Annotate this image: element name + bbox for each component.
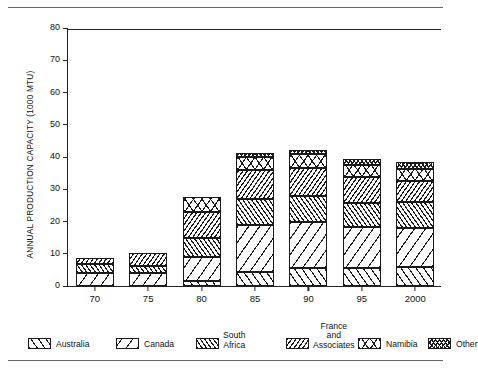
bar-segment[interactable] — [183, 238, 221, 257]
bar-segment[interactable] — [343, 227, 381, 268]
bar-group[interactable]: 85 — [236, 28, 274, 286]
bar-segment[interactable] — [236, 153, 274, 157]
bar-segment[interactable] — [343, 177, 381, 203]
legend-item[interactable]: Australia — [28, 338, 89, 349]
legend-label-line: Canada — [144, 340, 174, 350]
bar-segment[interactable] — [396, 181, 434, 202]
y-tick-label: 30 — [50, 183, 60, 193]
y-tick-label: 0 — [55, 280, 60, 290]
y-tick-label: 80 — [50, 22, 60, 32]
x-tick-label: 75 — [143, 293, 154, 304]
bar-segment[interactable] — [236, 157, 274, 170]
bar-segment[interactable] — [236, 272, 274, 287]
bar-segment[interactable] — [343, 268, 381, 286]
y-tick-label: 70 — [50, 54, 60, 64]
legend-item[interactable]: SouthAfrica — [196, 331, 245, 349]
legend-label-line: Africa — [223, 341, 245, 351]
y-tick-mark — [63, 28, 68, 29]
legend-label: SouthAfrica — [223, 331, 245, 350]
y-axis-title: ANNUAL PRODUCTION CAPACITY (1000 MTU) — [26, 45, 35, 285]
bar-segment[interactable] — [236, 170, 274, 199]
x-tick-label: 2000 — [405, 293, 426, 304]
bar-group[interactable]: 90 — [289, 28, 327, 286]
bar-segment[interactable] — [183, 212, 221, 238]
bar-segment[interactable] — [76, 273, 114, 286]
legend-swatch-icon — [286, 338, 309, 349]
legend-label: FranceandAssociates — [313, 322, 355, 351]
y-tick-label: 60 — [50, 87, 60, 97]
bar-segment[interactable] — [396, 267, 434, 286]
bar-segment[interactable] — [236, 225, 274, 272]
bar-series-container: 7075808590952000 — [68, 30, 441, 286]
legend-label: Namibia — [386, 340, 418, 350]
top-horizontal-rule — [8, 7, 443, 8]
legend-label-line: Associates — [313, 341, 355, 351]
legend-item[interactable]: Canada — [116, 338, 174, 349]
y-tick-label: 20 — [50, 216, 60, 226]
legend-swatch-icon — [116, 338, 139, 349]
bar-segment[interactable] — [129, 273, 167, 286]
bar-segment[interactable] — [289, 154, 327, 167]
legend-label-line: Other — [456, 340, 478, 350]
y-tick-label: 10 — [50, 248, 60, 258]
legend-swatch-icon — [358, 338, 381, 349]
bar-segment[interactable] — [396, 169, 434, 181]
bar-segment[interactable] — [289, 150, 327, 155]
legend-swatch-icon — [28, 338, 51, 349]
x-tick-label: 90 — [303, 293, 314, 304]
bar-segment[interactable] — [76, 258, 114, 264]
legend-label: Canada — [144, 340, 174, 350]
bar-segment[interactable] — [289, 168, 327, 196]
x-tick-mark — [254, 286, 255, 291]
x-tick-label: 70 — [89, 293, 100, 304]
legend-label: Other — [456, 340, 478, 350]
bar-group[interactable]: 2000 — [396, 28, 434, 286]
bar-group[interactable]: 70 — [76, 28, 114, 286]
bar-segment[interactable] — [343, 159, 381, 165]
bar-group[interactable]: 75 — [129, 28, 167, 286]
x-tick-label: 95 — [357, 293, 368, 304]
y-tick-label: 40 — [50, 151, 60, 161]
bar-segment[interactable] — [343, 203, 381, 227]
x-tick-label: 85 — [250, 293, 261, 304]
legend-label-line: Namibia — [386, 340, 418, 350]
bar-segment[interactable] — [396, 162, 434, 169]
bar-segment[interactable] — [129, 266, 167, 273]
chart-legend: AustraliaCanadaSouthAfricaFranceandAssoc… — [28, 318, 438, 352]
legend-swatch-icon — [196, 338, 219, 349]
bar-segment[interactable] — [289, 196, 327, 222]
bottom-horizontal-rule — [8, 360, 443, 361]
x-tick-mark — [94, 286, 95, 291]
x-tick-label: 80 — [196, 293, 207, 304]
plot-area: 01020304050607080 7075808590952000 — [67, 29, 441, 287]
bar-segment[interactable] — [183, 257, 221, 281]
bar-segment[interactable] — [289, 268, 327, 286]
x-tick-mark — [308, 286, 309, 291]
legend-label-line: Australia — [56, 340, 89, 350]
bar-segment[interactable] — [396, 228, 434, 268]
bar-group[interactable]: 95 — [343, 28, 381, 286]
bar-segment[interactable] — [76, 264, 114, 273]
legend-swatch-icon — [428, 338, 451, 349]
x-tick-mark — [415, 286, 416, 291]
x-tick-mark — [148, 286, 149, 291]
bar-segment[interactable] — [396, 202, 434, 228]
legend-item[interactable]: FranceandAssociates — [286, 322, 355, 350]
bar-segment[interactable] — [236, 199, 274, 225]
x-tick-mark — [361, 286, 362, 291]
bar-segment[interactable] — [129, 253, 167, 266]
legend-item[interactable]: Other — [428, 338, 478, 349]
legend-item[interactable]: Namibia — [358, 338, 418, 349]
bar-segment[interactable] — [183, 197, 221, 212]
bar-group[interactable]: 80 — [183, 28, 221, 286]
y-tick-label: 50 — [50, 119, 60, 129]
legend-label: Australia — [56, 340, 89, 350]
bar-segment[interactable] — [343, 165, 381, 177]
bar-segment[interactable] — [289, 222, 327, 269]
x-tick-mark — [201, 286, 202, 291]
